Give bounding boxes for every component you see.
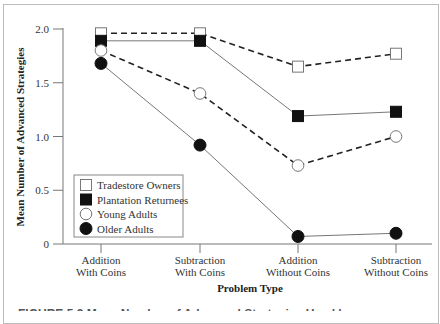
series-young-adults (95, 45, 402, 172)
legend-marker (80, 208, 92, 220)
legend-label: Plantation Returnees (97, 194, 188, 206)
x-tick-label: Subtraction (371, 254, 422, 266)
data-point (95, 45, 107, 57)
series-plantation-returnees (96, 35, 402, 121)
data-point (292, 230, 304, 242)
y-tick-label: 2.0 (35, 23, 49, 35)
legend-label: Older Adults (97, 223, 154, 235)
x-tick-label: Without Coins (364, 266, 428, 278)
x-tick-label: Subtraction (175, 254, 226, 266)
legend-marker (81, 180, 92, 191)
legend-marker (81, 194, 92, 205)
data-point (390, 131, 402, 143)
series-tradestore-owners (96, 28, 402, 72)
y-tick-label: 1.5 (35, 77, 49, 89)
y-tick-label: 0.5 (35, 184, 49, 196)
data-point (194, 139, 206, 151)
y-axis-title: Mean Number of Advanced Strategies (14, 47, 26, 227)
data-point (95, 57, 107, 69)
x-axis-title: Problem Type (217, 282, 283, 294)
legend: Tradestore OwnersPlantation ReturneesYou… (74, 175, 188, 237)
y-tick-label: 0 (44, 238, 50, 250)
data-point (293, 61, 304, 72)
series-line (101, 33, 396, 66)
x-tick-label: Addition (278, 254, 318, 266)
figure-caption: FIGURE 5.3 Mean Number of Advanced Strat… (18, 307, 353, 311)
x-tick-label: Without Coins (266, 266, 330, 278)
data-point (390, 227, 402, 239)
data-point (391, 106, 402, 117)
data-point (293, 111, 304, 122)
x-tick-label: With Coins (76, 266, 126, 278)
y-tick-label: 1.0 (35, 131, 49, 143)
series-line (101, 51, 396, 166)
x-tick-label: Addition (81, 254, 121, 266)
series-line (101, 41, 396, 116)
legend-label: Young Adults (97, 208, 157, 220)
legend-item: Plantation Returnees (81, 194, 189, 206)
x-tick-label: With Coins (175, 266, 225, 278)
data-point (195, 35, 206, 46)
data-point (292, 160, 304, 172)
axes: 00.51.01.52.0AdditionWith CoinsSubtracti… (35, 23, 432, 278)
data-point (194, 88, 206, 100)
data-point (391, 48, 402, 59)
legend-marker (80, 223, 92, 235)
legend-label: Tradestore Owners (97, 179, 181, 191)
